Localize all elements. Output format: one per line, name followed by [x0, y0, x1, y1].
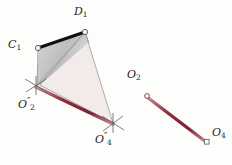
- geometry-figure: D1 C1 O″2 O″4 O2 O4: [0, 0, 232, 165]
- label-o2-double-prime: O″2: [18, 99, 35, 110]
- label-d1: D1: [74, 6, 88, 17]
- label-o2: O2: [127, 69, 141, 80]
- label-o4-double-prime: O″4: [95, 134, 112, 145]
- marker-d1: [82, 29, 87, 34]
- label-c1: C1: [8, 39, 21, 50]
- label-o4: O4: [212, 127, 226, 138]
- figure-canvas: [0, 0, 232, 165]
- segment-o2-o4: [147, 97, 206, 142]
- marker-o2: [145, 94, 150, 99]
- marker-c1: [35, 45, 40, 50]
- marker-o4: [205, 140, 210, 145]
